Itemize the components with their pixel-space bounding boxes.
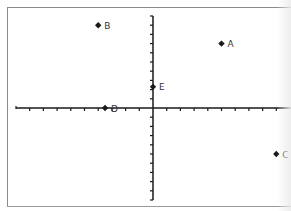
point-a: A <box>218 39 234 49</box>
point-label: D <box>111 104 118 114</box>
edge-fade <box>277 0 291 211</box>
axes <box>16 16 291 200</box>
data-points: ABCDE <box>95 21 289 160</box>
point-e: E <box>150 82 165 92</box>
point-label: A <box>228 39 235 49</box>
point-b: B <box>95 21 110 31</box>
scatter-plot: ABCDE <box>0 0 291 211</box>
diamond-marker-icon <box>102 105 108 111</box>
point-label: E <box>159 82 165 92</box>
point-label: B <box>104 21 110 31</box>
diamond-marker-icon <box>95 22 101 28</box>
diamond-marker-icon <box>218 40 224 46</box>
